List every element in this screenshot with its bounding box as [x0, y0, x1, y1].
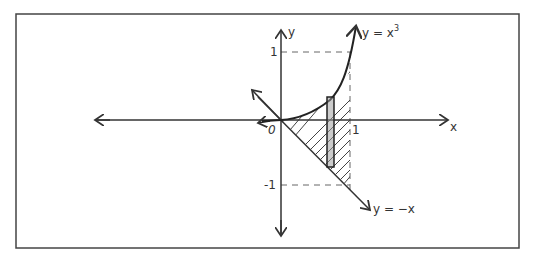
y-tick-1-label: 1 — [270, 45, 278, 59]
diagram-canvas: y x 0 1 1 -1 y = x3 y = −x — [0, 0, 548, 262]
origin-label: 0 — [268, 123, 276, 137]
curve-y-x-cubed — [262, 26, 356, 121]
y-axis-label: y — [288, 25, 295, 39]
y-tick-neg1-label: -1 — [264, 178, 276, 192]
representative-rectangle — [327, 97, 334, 167]
x-tick-1-label: 1 — [352, 123, 360, 137]
x-axis-label: x — [450, 120, 457, 134]
curve-lower-label: y = −x — [373, 202, 415, 216]
curve-upper-label: y = x3 — [362, 24, 399, 40]
